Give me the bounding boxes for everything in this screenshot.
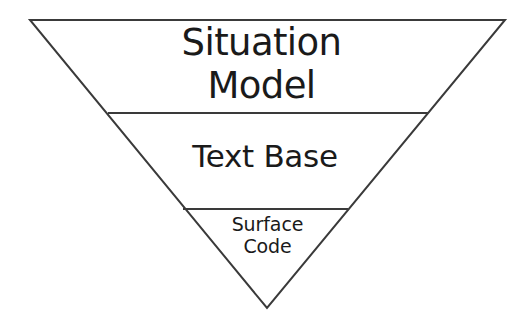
layer-label-situation-model: Situation Model	[60, 22, 463, 108]
layer-label-text-base: Text Base	[110, 139, 420, 174]
diagram-canvas: Situation Model Text Base Surface Code	[0, 0, 523, 329]
layer-label-surface-code: Surface Code	[190, 213, 345, 258]
